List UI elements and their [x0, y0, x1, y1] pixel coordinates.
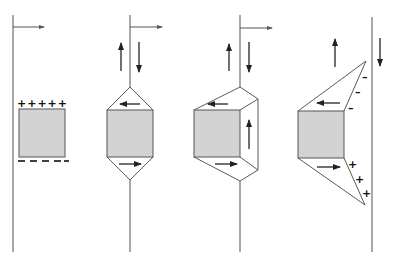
panel-4: – – – + + + [298, 17, 380, 252]
plate [298, 111, 344, 158]
lower-triangle-surface [107, 157, 153, 180]
svg-text:+: + [355, 173, 364, 186]
svg-text:–: – [355, 86, 361, 99]
svg-text:+: + [348, 158, 357, 171]
plate [107, 110, 153, 157]
svg-text:–: – [348, 102, 354, 115]
svg-text:+: + [362, 187, 371, 200]
panel-1: + + + + + [13, 15, 69, 252]
diagram-canvas: + + + + + [0, 0, 394, 260]
svg-text:–: – [362, 71, 368, 84]
panel-2 [107, 15, 162, 252]
panel-3 [194, 15, 272, 252]
lower-surface [194, 157, 258, 181]
plate [19, 109, 65, 157]
upper-surface [194, 87, 258, 110]
upper-triangle-surface [107, 87, 153, 110]
negative-charges: – – – [348, 71, 368, 115]
positive-charges: + + + + + [17, 97, 67, 110]
plate [194, 110, 240, 157]
